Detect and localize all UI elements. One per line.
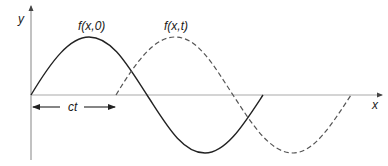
wave-diagram: y x f(x,0) f(x,t) ct bbox=[0, 0, 388, 166]
curve-label-f-x-0: f(x,0) bbox=[78, 19, 105, 33]
x-axis-label: x bbox=[371, 98, 379, 112]
displacement-label-ct: ct bbox=[68, 100, 78, 114]
curve-label-f-x-t: f(x,t) bbox=[164, 19, 188, 33]
y-axis-label: y bbox=[17, 12, 25, 26]
